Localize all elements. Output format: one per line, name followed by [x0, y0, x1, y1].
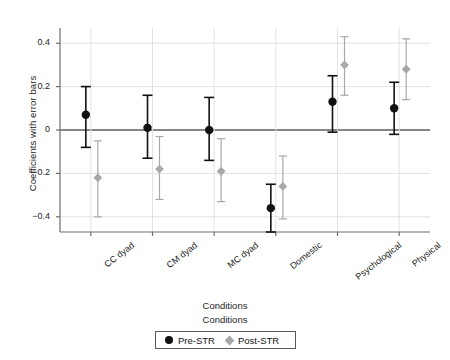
x-axis-title: Conditions [0, 300, 450, 311]
data-point-marker[interactable] [143, 124, 151, 132]
y-tick-label: −0.2 [16, 167, 50, 177]
series-post-str [93, 37, 410, 219]
legend-label-post-str: Post-STR [238, 335, 279, 346]
data-point-marker[interactable] [267, 204, 275, 212]
data-point-marker[interactable] [205, 126, 213, 134]
y-tick-label: 0.2 [16, 81, 50, 91]
data-point-marker[interactable] [82, 111, 90, 119]
chart-figure: Coefficients with error bars Conditions … [0, 0, 450, 360]
y-tick-label: −0.4 [16, 211, 50, 221]
data-point-marker[interactable] [217, 167, 226, 176]
y-tick-label: 0 [16, 124, 50, 134]
data-point-marker[interactable] [93, 173, 102, 182]
legend-title: Conditions [0, 314, 450, 325]
pre-str-marker-icon [165, 336, 173, 344]
y-tick-label: 0.4 [16, 37, 50, 47]
data-point-marker[interactable] [390, 104, 398, 112]
data-point-marker[interactable] [278, 182, 287, 191]
data-point-marker[interactable] [328, 98, 336, 106]
data-point-marker[interactable] [155, 165, 164, 174]
data-point-marker[interactable] [402, 65, 411, 74]
series-pre-str [81, 76, 399, 232]
data-point-marker[interactable] [340, 60, 349, 69]
legend-label-pre-str: Pre-STR [178, 335, 215, 346]
legend-item-post-str[interactable]: Post-STR [226, 335, 279, 346]
legend-item-pre-str[interactable]: Pre-STR [165, 335, 215, 346]
post-str-marker-icon [225, 335, 235, 345]
chart-legend: Pre-STR Post-STR [155, 331, 296, 349]
